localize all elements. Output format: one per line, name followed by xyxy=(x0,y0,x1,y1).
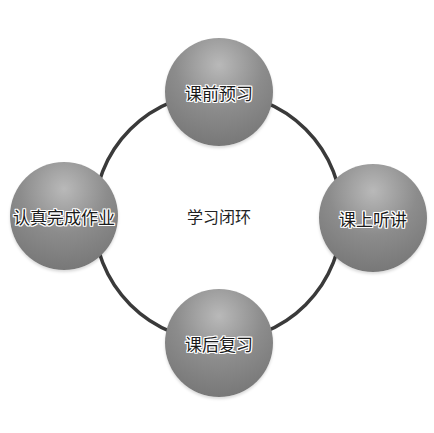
node-label: 课上听讲 xyxy=(339,206,407,231)
node-top: 课前预习 xyxy=(165,38,273,146)
node-bottom: 课后复习 xyxy=(165,289,273,397)
node-left: 认真完成作业 xyxy=(10,162,118,270)
node-label: 认真完成作业 xyxy=(13,204,115,229)
node-label: 课后复习 xyxy=(185,331,253,356)
center-label: 学习闭环 xyxy=(169,204,269,228)
node-label: 课前预习 xyxy=(185,80,253,105)
node-right: 课上听讲 xyxy=(319,164,427,272)
